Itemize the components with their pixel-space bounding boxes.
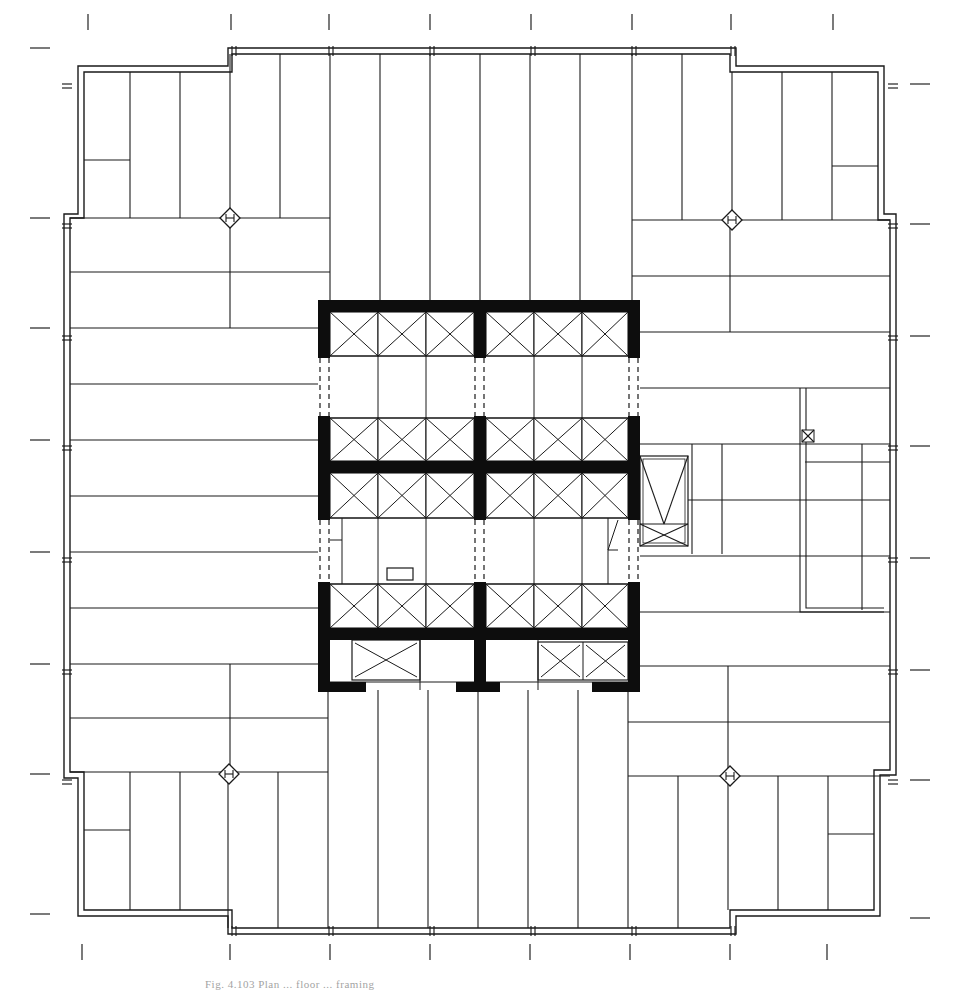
core-wall: [318, 300, 330, 358]
equipment-box: [387, 568, 413, 580]
core-wall: [318, 682, 366, 692]
core-wall: [456, 682, 500, 692]
core-wall: [592, 682, 640, 692]
core-wall: [628, 300, 640, 358]
core-wall: [318, 628, 640, 640]
figure-caption: Fig. 4.103 Plan ... floor ... framing: [205, 978, 374, 990]
core-wall: [474, 300, 486, 358]
core-wall: [318, 461, 640, 473]
x-box-elevator-icon: [640, 456, 688, 546]
